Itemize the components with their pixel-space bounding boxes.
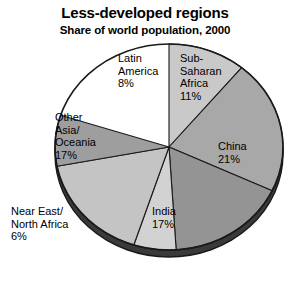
pie-chart-figure: Less-developed regions Share of world po… — [0, 0, 290, 281]
slice-label-latin-america: Latin America 8% — [118, 52, 158, 90]
slice-label-sub-saharan-africa: Sub- Saharan Africa 11% — [180, 52, 222, 102]
slice-label-india: India 17% — [152, 205, 176, 230]
slice-label-near-east-north-africa: Near East/ North Africa 6% — [11, 205, 68, 243]
slice-label-china: China 21% — [218, 140, 247, 165]
slice-label-other-asia-oceania: Other Asia/ Oceania 17% — [55, 111, 96, 161]
